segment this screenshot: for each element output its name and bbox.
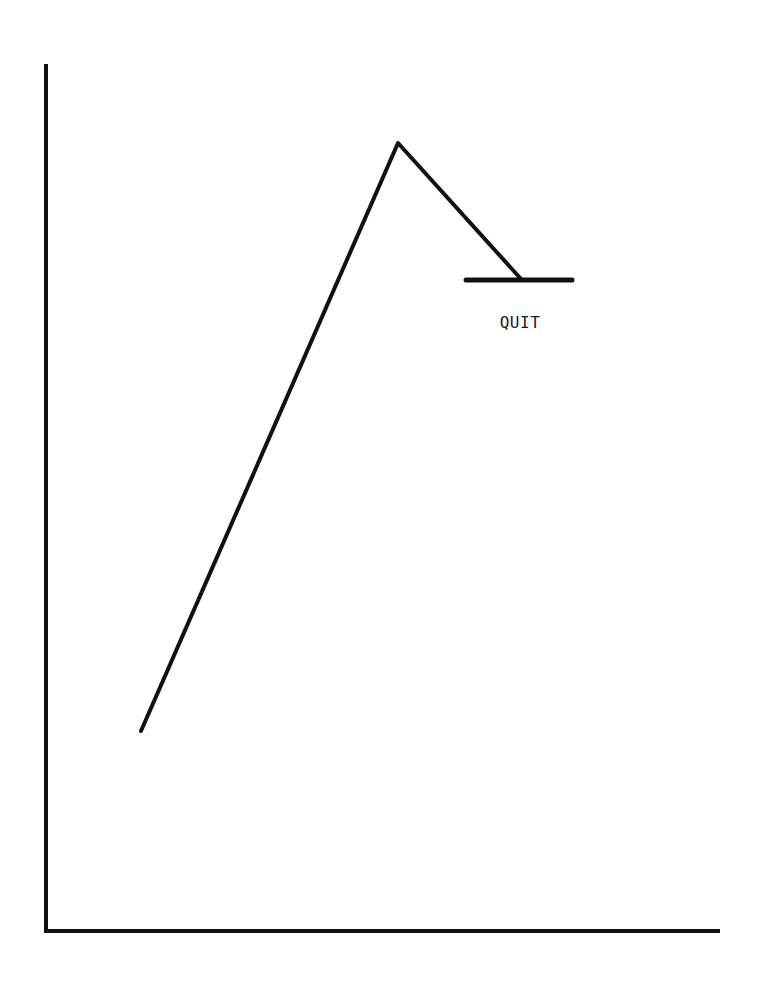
chart (0, 0, 766, 983)
quit-label: QUIT (500, 313, 541, 332)
data-line (141, 143, 521, 731)
